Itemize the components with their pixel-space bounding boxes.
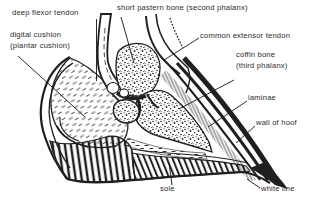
label-common-extensor-tendon: common extensor tendon: [200, 31, 290, 42]
navicular-bone-shape: [113, 100, 139, 123]
label-deep-flexor-tendon: deep flexor tendon: [12, 8, 79, 19]
label-coffin-bone: coffin bone (third phalanx): [236, 50, 288, 71]
label-sole: sole: [160, 184, 175, 195]
label-digital-cushion: digital cushion (plantar cushion): [10, 30, 70, 51]
label-coffin-bone-line1: coffin bone: [236, 50, 288, 61]
label-white-line: white line: [261, 184, 295, 195]
label-short-pastern-bone: short pastern bone (second phalanx): [117, 3, 248, 14]
label-digital-cushion-line2: (plantar cushion): [10, 41, 70, 52]
short-pastern-bone-shape: [116, 43, 160, 96]
label-wall-of-hoof: wall of hoof: [256, 118, 297, 129]
label-laminae: laminae: [248, 93, 276, 104]
hoof-cross-section-figure: deep flexor tendon digital cushion (plan…: [0, 0, 322, 207]
label-digital-cushion-line1: digital cushion: [10, 30, 70, 41]
label-coffin-bone-line2: (third phalanx): [236, 61, 288, 72]
